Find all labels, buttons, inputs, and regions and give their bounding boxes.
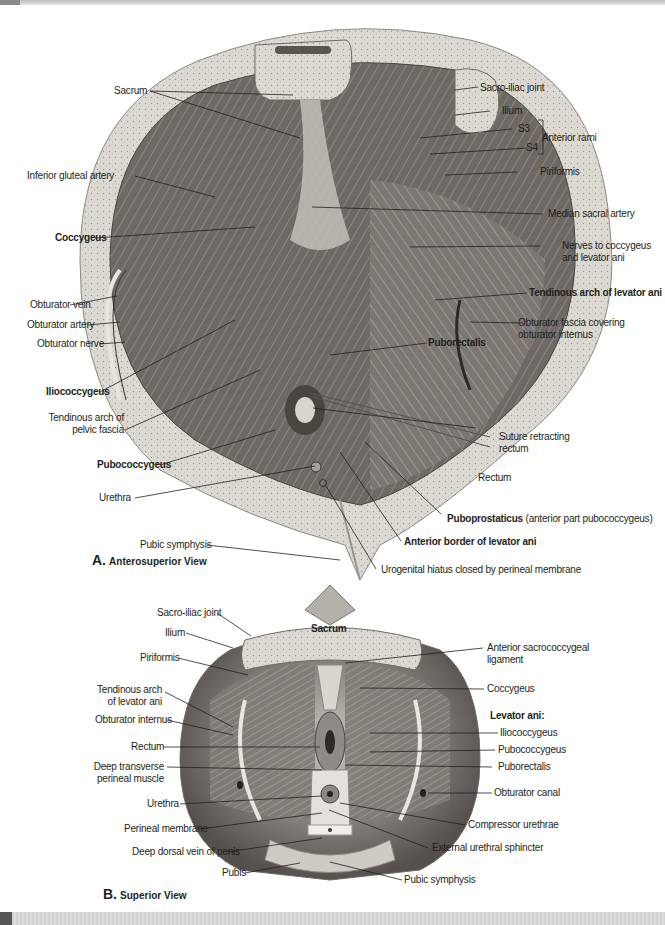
label-b-anterior-sacrococcygeal-line1: Anterior sacrococcygeal [487, 642, 589, 654]
label-a-obturator-artery: Obturator artery [27, 319, 94, 331]
label-b-pubic-symphysis: Pubic symphysis [404, 874, 475, 886]
label-a-puboprostaticus-bold: Puboprostaticus [447, 513, 523, 524]
label-a-s4: S4 [526, 142, 538, 154]
label-a-coccygeus: Coccygeus [55, 232, 107, 244]
label-a-iliococcygeus: Iliococcygeus [46, 386, 110, 398]
label-b-rectum: Rectum [131, 741, 164, 753]
figure-a-caption: A. Anterosuperior View [92, 552, 207, 568]
label-b-deep-transverse-line1: Deep transverse [80, 761, 164, 773]
label-b-puborectalis: Puborectalis [498, 761, 551, 773]
figure-a-letter: A. [92, 552, 106, 568]
label-a-nerves-line2: and levator ani [562, 252, 625, 264]
label-a-anterior-border: Anterior border of levator ani [404, 536, 536, 548]
label-b-levator-ani-heading: Levator ani: [490, 710, 544, 722]
label-b-coccygeus: Coccygeus [487, 683, 535, 695]
label-b-tendinous-arch-line1: Tendinous arch [90, 684, 162, 696]
figure-b-view: Superior View [120, 890, 187, 901]
label-a-puboprostaticus-note: (anterior part pubococcygeus) [526, 513, 653, 524]
label-b-obturator-canal: Obturator canal [494, 787, 560, 799]
label-a-piriformis: Piriformis [540, 166, 580, 178]
label-a-pubic-symphysis: Pubic symphysis [140, 539, 211, 551]
page-bottom-strip [0, 912, 665, 925]
figure-b-caption: B. Superior View [103, 886, 187, 902]
label-a-tendinous-arch-levator-ani: Tendinous arch of levator ani [529, 287, 662, 299]
label-a-rectum: Rectum [478, 472, 511, 484]
label-a-s3: S3 [518, 123, 530, 135]
label-b-urethra: Urethra [147, 798, 179, 810]
label-a-obturator-fascia-line1: Obturator fascia covering [518, 317, 625, 329]
label-a-urethra: Urethra [99, 492, 131, 504]
label-b-sacro-iliac-joint: Sacro-iliac joint [157, 607, 221, 619]
figure-b-letter: B. [103, 886, 117, 902]
label-b-sacrum: Sacrum [311, 623, 347, 635]
figure-a-view: Anterosuperior View [109, 556, 207, 567]
label-a-suture-line1: Suture retracting [499, 431, 570, 443]
label-a-tendinous-arch-pelvic-line1: Tendinous arch of [40, 412, 124, 424]
label-b-deep-dorsal-vein: Deep dorsal vein of penis [132, 846, 240, 858]
label-b-ilium: Ilium [165, 627, 185, 639]
label-b-iliococcygeus: Iliococcygeus [500, 727, 557, 739]
label-b-pubococcygeus: Pubococcygeus [498, 744, 566, 756]
label-a-obturator-fascia-line2: obturator internus [518, 329, 593, 341]
label-a-inferior-gluteal-artery: Inferior gluteal artery [27, 170, 114, 182]
label-a-median-sacral-artery: Median sacral artery [548, 208, 635, 220]
label-a-tendinous-arch-pelvic-line2: pelvic fascia [40, 424, 124, 436]
label-b-pubis: Pubis [222, 867, 246, 879]
label-a-pubococcygeus: Pubococcygeus [97, 459, 171, 471]
label-a-obturator-nerve: Obturator nerve [37, 338, 104, 350]
label-b-compressor-urethrae: Compressor urethrae [468, 819, 559, 831]
label-b-perineal-membrane: Perineal membrane [124, 823, 208, 835]
label-b-obturator-internus: Obturator internus [95, 714, 172, 726]
label-a-sacrum: Sacrum [114, 85, 147, 97]
label-a-sacro-iliac-joint: Sacro-iliac joint [480, 82, 544, 94]
label-b-tendinous-arch-line2: of levator ani [90, 696, 162, 708]
label-b-piriformis: Piriformis [140, 652, 180, 664]
label-a-puboprostaticus: Puboprostaticus (anterior part pubococcy… [447, 513, 653, 525]
label-b-anterior-sacrococcygeal-line2: ligament [487, 654, 523, 666]
label-a-anterior-rami: Anterior rami [542, 132, 597, 144]
label-a-ilium: Ilium [502, 105, 522, 117]
label-b-external-urethral-sphincter: External urethral sphincter [432, 842, 543, 854]
label-a-obturator-vein: Obturator vein [30, 299, 91, 311]
label-a-suture-line2: rectum [499, 443, 528, 455]
label-b-deep-transverse-line2: perineal muscle [80, 773, 164, 785]
page-corner-tab [0, 912, 12, 925]
label-a-nerves-line1: Nerves to coccygeus [562, 240, 651, 252]
label-a-puborectalis: Puborectalis [428, 337, 486, 349]
label-a-urogenital-hiatus: Urogenital hiatus closed by perineal mem… [381, 564, 581, 576]
